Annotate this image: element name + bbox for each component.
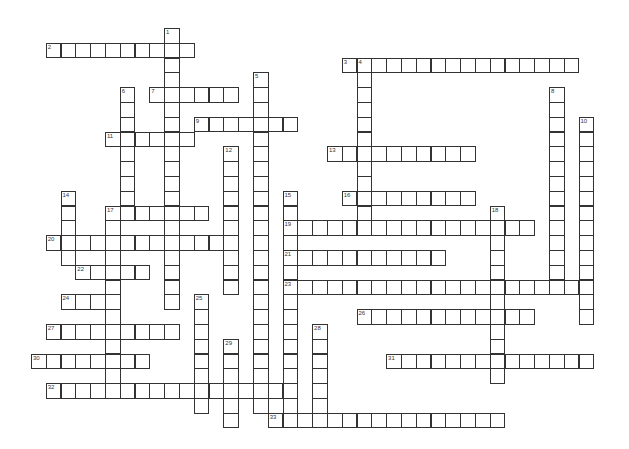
- crossword-cell[interactable]: [105, 235, 121, 251]
- crossword-cell[interactable]: [253, 191, 269, 207]
- crossword-cell[interactable]: [238, 383, 254, 399]
- crossword-cell[interactable]: [519, 354, 535, 370]
- crossword-cell[interactable]: [149, 383, 165, 399]
- crossword-cell[interactable]: [253, 146, 269, 162]
- crossword-cell[interactable]: [490, 250, 506, 266]
- crossword-cell[interactable]: [283, 235, 299, 251]
- crossword-cell[interactable]: [505, 220, 521, 236]
- crossword-cell[interactable]: [460, 280, 476, 296]
- crossword-cell[interactable]: [490, 58, 506, 74]
- crossword-cell[interactable]: [253, 235, 269, 251]
- crossword-cell[interactable]: [61, 235, 77, 251]
- crossword-cell[interactable]: [194, 206, 210, 222]
- crossword-cell[interactable]: [505, 58, 521, 74]
- crossword-cell[interactable]: [164, 102, 180, 118]
- crossword-cell[interactable]: [164, 206, 180, 222]
- crossword-cell[interactable]: [431, 146, 447, 162]
- crossword-cell[interactable]: [223, 87, 239, 103]
- crossword-cell[interactable]: [46, 354, 62, 370]
- crossword-cell[interactable]: [401, 191, 417, 207]
- crossword-cell[interactable]: [490, 339, 506, 355]
- crossword-cell[interactable]: [549, 176, 565, 192]
- crossword-cell[interactable]: [505, 280, 521, 296]
- crossword-cell[interactable]: [75, 294, 91, 310]
- crossword-cell[interactable]: [149, 206, 165, 222]
- crossword-cell[interactable]: [490, 220, 506, 236]
- crossword-cell[interactable]: [90, 383, 106, 399]
- crossword-cell[interactable]: [283, 368, 299, 384]
- crossword-cell[interactable]: 22: [75, 265, 91, 281]
- crossword-cell[interactable]: [371, 220, 387, 236]
- crossword-cell[interactable]: [105, 383, 121, 399]
- crossword-cell[interactable]: [120, 102, 136, 118]
- crossword-cell[interactable]: [416, 413, 432, 429]
- crossword-cell[interactable]: [61, 354, 77, 370]
- crossword-cell[interactable]: [490, 235, 506, 251]
- crossword-cell[interactable]: [283, 383, 299, 399]
- crossword-cell[interactable]: [164, 220, 180, 236]
- crossword-cell[interactable]: [164, 383, 180, 399]
- crossword-cell[interactable]: [357, 72, 373, 88]
- crossword-cell[interactable]: 26: [357, 309, 373, 325]
- crossword-cell[interactable]: 28: [312, 324, 328, 340]
- crossword-cell[interactable]: [490, 324, 506, 340]
- crossword-cell[interactable]: [223, 265, 239, 281]
- crossword-cell[interactable]: [194, 309, 210, 325]
- crossword-cell[interactable]: 16: [342, 191, 358, 207]
- crossword-cell[interactable]: [283, 398, 299, 414]
- crossword-cell[interactable]: [75, 235, 91, 251]
- crossword-cell[interactable]: [579, 176, 595, 192]
- crossword-cell[interactable]: [431, 354, 447, 370]
- crossword-cell[interactable]: [357, 413, 373, 429]
- crossword-cell[interactable]: [549, 146, 565, 162]
- crossword-cell[interactable]: [564, 354, 580, 370]
- crossword-cell[interactable]: [105, 250, 121, 266]
- crossword-cell[interactable]: [164, 146, 180, 162]
- crossword-cell[interactable]: [135, 265, 151, 281]
- crossword-cell[interactable]: [179, 87, 195, 103]
- crossword-cell[interactable]: [460, 309, 476, 325]
- crossword-cell[interactable]: [164, 176, 180, 192]
- crossword-cell[interactable]: [519, 220, 535, 236]
- crossword-cell[interactable]: [149, 43, 165, 59]
- crossword-cell[interactable]: [312, 220, 328, 236]
- crossword-cell[interactable]: 17: [105, 206, 121, 222]
- crossword-cell[interactable]: [431, 280, 447, 296]
- crossword-cell[interactable]: [431, 309, 447, 325]
- crossword-cell[interactable]: [120, 235, 136, 251]
- crossword-cell[interactable]: [283, 117, 299, 133]
- crossword-cell[interactable]: [149, 235, 165, 251]
- crossword-cell[interactable]: [445, 413, 461, 429]
- crossword-cell[interactable]: [357, 280, 373, 296]
- crossword-cell[interactable]: [431, 413, 447, 429]
- crossword-cell[interactable]: [164, 117, 180, 133]
- crossword-cell[interactable]: [519, 58, 535, 74]
- crossword-cell[interactable]: [431, 220, 447, 236]
- crossword-cell[interactable]: [386, 220, 402, 236]
- crossword-cell[interactable]: [445, 191, 461, 207]
- crossword-cell[interactable]: [164, 161, 180, 177]
- crossword-cell[interactable]: [386, 58, 402, 74]
- crossword-cell[interactable]: [460, 146, 476, 162]
- crossword-cell[interactable]: [223, 413, 239, 429]
- crossword-cell[interactable]: [357, 161, 373, 177]
- crossword-cell[interactable]: [283, 413, 299, 429]
- crossword-cell[interactable]: [416, 309, 432, 325]
- crossword-cell[interactable]: [149, 132, 165, 148]
- crossword-cell[interactable]: 29: [223, 339, 239, 355]
- crossword-cell[interactable]: [327, 413, 343, 429]
- crossword-cell[interactable]: [253, 102, 269, 118]
- crossword-cell[interactable]: [490, 265, 506, 281]
- crossword-cell[interactable]: [90, 43, 106, 59]
- crossword-cell[interactable]: [253, 176, 269, 192]
- crossword-cell[interactable]: [386, 280, 402, 296]
- crossword-cell[interactable]: [371, 280, 387, 296]
- crossword-cell[interactable]: [90, 294, 106, 310]
- crossword-cell[interactable]: 33: [268, 413, 284, 429]
- crossword-cell[interactable]: [357, 132, 373, 148]
- crossword-cell[interactable]: 30: [31, 354, 47, 370]
- crossword-cell[interactable]: [490, 294, 506, 310]
- crossword-cell[interactable]: [342, 280, 358, 296]
- crossword-cell[interactable]: [283, 309, 299, 325]
- crossword-cell[interactable]: [416, 354, 432, 370]
